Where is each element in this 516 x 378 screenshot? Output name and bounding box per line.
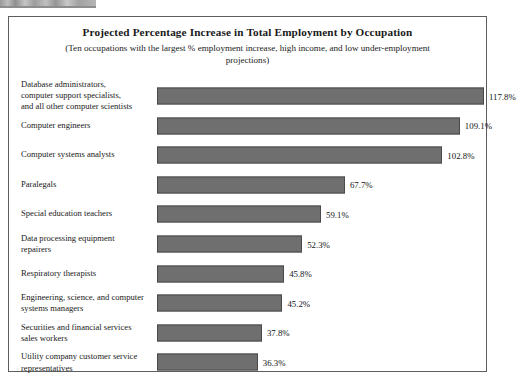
bar-category-label: Securities and financial services sales … [21,322,157,344]
bar-row: Special education teachers59.1% [9,199,486,229]
bar-category-label: Engineering, science, and computer syste… [21,292,157,314]
bar-track: 117.8% [157,88,482,105]
bar-value-label: 102.8% [447,150,474,160]
bar [157,176,345,193]
bar-row: Computer engineers109.1% [9,111,486,141]
bar-track: 109.1% [157,117,482,134]
chart-subtitle: (Ten occupations with the largest % empl… [9,42,486,66]
bar-row: Computer systems analysts102.8% [9,140,486,170]
bar-row: Engineering, science, and computer syste… [9,288,486,318]
bar-track: 36.3% [157,354,482,371]
bar [157,88,484,105]
bar-track: 59.1% [157,206,482,223]
bar-value-label: 117.8% [489,91,516,101]
bar [157,295,282,312]
bar [157,265,284,282]
bar-value-label: 45.8% [289,269,312,279]
bar-category-label: Computer engineers [21,120,157,131]
bar-row: Database administrators, computer suppor… [9,81,486,111]
bar-value-label: 52.3% [307,239,330,249]
bar-track: 67.7% [157,176,482,193]
bar-value-label: 36.3% [263,357,286,367]
plot-area: Database administrators, computer suppor… [9,81,486,371]
bar-category-label: Utility company customer service represe… [21,351,157,373]
bar-track: 102.8% [157,147,482,164]
bar [157,236,302,253]
bar-row: Utility company customer service represe… [9,347,486,377]
bar-category-label: Respiratory therapists [21,268,157,279]
bar-row: Paralegals67.7% [9,170,486,200]
clipped-header-artifact [0,0,96,8]
bar [157,147,442,164]
bar-track: 37.8% [157,324,482,341]
bar-value-label: 109.1% [465,121,492,131]
bar-category-label: Data processing equipment repairers [21,233,157,255]
bar [157,354,258,371]
bar-category-label: Special education teachers [21,209,157,220]
bar-category-label: Computer systems analysts [21,150,157,161]
bar [157,324,262,341]
bar-row: Data processing equipment repairers52.3% [9,229,486,259]
bar [157,206,321,223]
bar-value-label: 45.2% [287,298,310,308]
bar-category-label: Database administrators, computer suppor… [21,79,157,113]
bar-track: 45.2% [157,295,482,312]
bar-row: Respiratory therapists45.8% [9,259,486,289]
chart-title: Projected Percentage Increase in Total E… [9,26,486,39]
bar-value-label: 67.7% [350,180,373,190]
bar-value-label: 59.1% [326,209,349,219]
chart-figure-frame: Projected Percentage Increase in Total E… [8,16,487,372]
bar-category-label: Paralegals [21,179,157,190]
bar-value-label: 37.8% [267,328,290,338]
bar [157,117,460,134]
bar-track: 45.8% [157,265,482,282]
bar-row: Securities and financial services sales … [9,318,486,348]
bar-track: 52.3% [157,236,482,253]
